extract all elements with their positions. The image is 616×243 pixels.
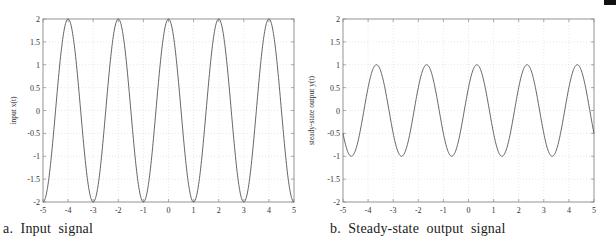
y-axis-ticks: -2-1.5-1-0.500.511.52 [27,15,294,207]
y-axis-label: input x(t) [9,96,18,125]
input-signal-chart: -5-4-3-2-1012345-2-1.5-1-0.500.511.52tim… [0,0,305,220]
x-tick-label: 0 [167,206,171,215]
y-tick-label: -0.5 [27,129,40,138]
x-tick-label: 1 [192,206,196,215]
caption-input-signal: a. Input signal [3,221,93,237]
y-tick-label: -1.5 [27,175,40,184]
y-axis-label: steady-state output y(t) [307,75,316,145]
y-tick-label: 1.5 [30,38,40,47]
y-tick-label: 1 [36,61,40,70]
x-tick-label: -5 [340,206,347,215]
y-tick-label: -0.5 [327,129,340,138]
y-tick-label: -1 [33,152,40,161]
panel-input-signal: -5-4-3-2-1012345-2-1.5-1-0.500.511.52tim… [0,0,305,220]
y-tick-label: 1 [336,61,340,70]
y-tick-label: 0.5 [30,84,40,93]
x-tick-label: -3 [90,206,97,215]
x-tick-label: 4 [567,206,571,215]
x-tick-label: 0 [467,206,471,215]
x-tick-label: 3 [542,206,546,215]
x-tick-label: -2 [115,206,122,215]
x-axis-ticks: -5-4-3-2-1012345 [340,19,596,215]
x-tick-label: -3 [390,206,397,215]
y-axis-ticks: -2-1.5-1-0.500.511.52 [327,15,594,207]
x-tick-label: -4 [65,206,72,215]
y-tick-label: 2 [336,15,340,24]
caption-output-signal: b. Steady-state output signal [330,221,506,237]
y-tick-label: 0.5 [330,84,340,93]
x-tick-label: -1 [440,206,447,215]
x-tick-label: 4 [267,206,271,215]
y-tick-label: 0 [336,107,340,116]
corner-marker [604,0,616,5]
x-tick-label: 1 [492,206,496,215]
x-tick-label: -5 [40,206,47,215]
x-tick-label: -4 [365,206,372,215]
y-tick-label: -2 [333,198,340,207]
panel-output-signal: -5-4-3-2-1012345-2-1.5-1-0.500.511.52tim… [300,0,605,220]
x-tick-label: 5 [592,206,596,215]
y-tick-label: -1 [333,152,340,161]
grid [343,19,594,202]
x-tick-label: 2 [217,206,221,215]
x-tick-label: -1 [140,206,147,215]
y-tick-label: 1.5 [330,38,340,47]
y-tick-label: -2 [33,198,40,207]
x-tick-label: 5 [292,206,296,215]
x-tick-label: -2 [415,206,422,215]
x-axis-ticks: -5-4-3-2-1012345 [40,19,296,215]
y-tick-label: -1.5 [327,175,340,184]
x-tick-label: 2 [517,206,521,215]
output-signal-chart: -5-4-3-2-1012345-2-1.5-1-0.500.511.52tim… [300,0,605,220]
x-tick-label: 3 [242,206,246,215]
y-tick-label: 0 [36,107,40,116]
y-tick-label: 2 [36,15,40,24]
